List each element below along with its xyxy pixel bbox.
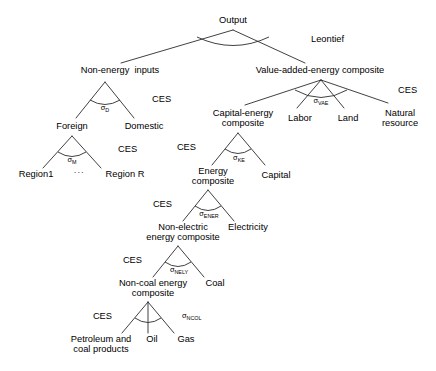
ces-production-tree-diagram: Output Leontief Non-energy inputs Value-… xyxy=(0,0,436,371)
arc-sigma-vae xyxy=(295,90,347,98)
function-label-ces-vae: CES xyxy=(398,85,417,95)
node-capital-label: Capital xyxy=(262,170,291,180)
edge-vae-to-capital-energy xyxy=(245,80,321,105)
node-output-label: Output xyxy=(219,15,247,25)
node-petroleum-label-line2: coal products xyxy=(73,344,129,354)
node-natural-resource-label-line2: resource xyxy=(382,118,418,128)
arc-sigma-ke xyxy=(225,149,251,154)
tree-canvas: Output Leontief Non-energy inputs Value-… xyxy=(0,0,436,371)
branch-sigma-nely: σNELY CES xyxy=(123,246,204,277)
node-electricity-label: Electricity xyxy=(228,222,268,232)
elasticity-sigma-ke: σKE xyxy=(233,153,245,163)
node-foreign-label: Foreign xyxy=(56,121,88,131)
branch-sigma-ncol: σNCOL CES xyxy=(93,302,202,333)
function-label-ces-d: CES xyxy=(152,94,171,104)
node-energy-composite-label-line1: Energy xyxy=(198,166,228,176)
node-output: Output xyxy=(219,15,247,25)
node-non-coal-label-line1: Non-coal energy xyxy=(119,278,188,288)
function-label-ces-m: CES xyxy=(118,144,137,154)
arc-leontief xyxy=(197,37,269,46)
node-region-ellipsis: ··· xyxy=(74,167,85,177)
function-label-ces-nely: CES xyxy=(123,255,142,265)
node-region1-label: Region1 xyxy=(19,169,54,179)
edge-noncoal-to-gas xyxy=(148,302,174,333)
edge-output-to-nonenergy xyxy=(121,30,233,63)
node-labor-label: Labor xyxy=(288,113,312,123)
node-vae-composite-label: Value-added-energy composite xyxy=(256,65,385,75)
node-non-energy-inputs-label: Non-energy inputs xyxy=(81,65,160,75)
function-label-leontief: Leontief xyxy=(311,34,345,44)
branch-sigma-vae: σVAE CES xyxy=(245,80,417,108)
node-coal-label: Coal xyxy=(205,278,224,288)
node-domestic-label: Domestic xyxy=(125,121,164,131)
node-non-electric-label-line2: energy composite xyxy=(146,232,219,242)
node-energy-composite-label-line2: composite xyxy=(192,176,234,186)
elasticity-sigma-ncol: σNCOL xyxy=(182,311,202,321)
branch-sigma-m: σM CES xyxy=(43,136,137,168)
branch-sigma-d: σD CES xyxy=(76,82,171,118)
edge-output-to-vae xyxy=(233,30,305,63)
node-region-r-label: Region R xyxy=(106,169,145,179)
edges-output: Leontief xyxy=(121,30,345,63)
node-gas-label: Gas xyxy=(177,334,194,344)
node-capital-energy-label-line1: Capital-energy xyxy=(213,108,274,118)
node-petroleum-label-line1: Petroleum and xyxy=(71,334,131,344)
function-label-ces-ke: CES xyxy=(177,142,196,152)
function-label-ces-ener: CES xyxy=(153,199,172,209)
branch-sigma-ke: σKE CES xyxy=(177,133,265,165)
function-label-ces-ncol: CES xyxy=(93,311,112,321)
branch-sigma-ener: σENER CES xyxy=(153,190,234,221)
node-oil-label: Oil xyxy=(146,334,157,344)
node-natural-resource-label-line1: Natural xyxy=(385,108,415,118)
edge-noncoal-to-petroleum xyxy=(122,302,148,333)
node-land-label: Land xyxy=(338,113,359,123)
edge-vae-to-natural-resource xyxy=(321,80,388,103)
node-non-electric-label-line1: Non-electric xyxy=(158,222,208,232)
node-non-coal-label-line2: composite xyxy=(132,288,174,298)
node-capital-energy-label-line2: composite xyxy=(222,118,264,128)
